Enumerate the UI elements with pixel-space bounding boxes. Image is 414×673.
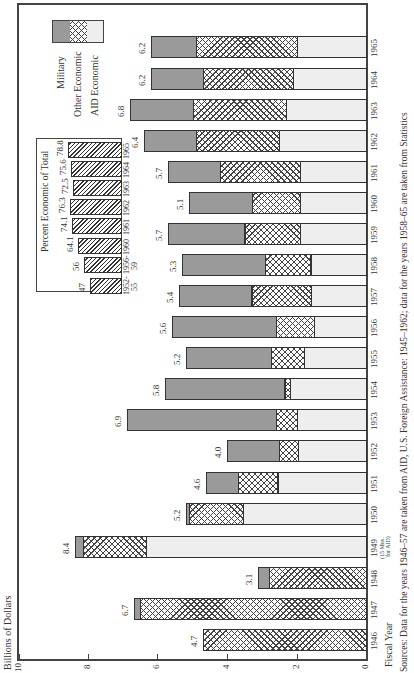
year-label: 1965 [369,39,379,57]
legend-swatch-other-economic [70,21,88,42]
segment-military [151,68,204,90]
value-axis-tick [88,654,89,659]
segment-military [168,161,221,183]
inset-bar [72,218,122,234]
segment-other-economic [196,130,280,152]
segment-military [206,472,238,494]
year-label: 1958 [369,257,379,275]
bar-total-label: 4.0 [213,447,223,458]
segment-military [75,536,85,558]
bar-total-label: 5.2 [172,510,182,521]
segment-other-economic [271,347,305,369]
segment-military [186,503,191,525]
year-label: 1947 [369,601,379,619]
segment-aid-economic [297,409,367,431]
inset-bar-value: 64.1 [65,236,75,252]
value-axis-tick-label: 2 [291,665,301,670]
legend-swatches [52,20,104,43]
inset-year-label: 59 [131,262,139,270]
year-note: for AID) [385,536,391,557]
bar-total-label: 6.9 [113,416,123,427]
segment-other-economic [252,285,312,307]
inset-year-label: 1964 [123,162,131,178]
value-axis-tick-label: 0 [360,665,370,670]
inset-bar [84,257,122,273]
value-axis-tick [297,654,298,659]
segment-other-economic [276,409,298,431]
year-label: 1961 [369,164,379,182]
inset-bar-value: 74.1 [59,216,69,232]
inset-year-label: 55 [131,283,139,291]
segment-aid-economic [286,99,367,121]
bar-total-label: 5.7 [154,168,164,179]
year-label: 1955 [369,350,379,368]
inset-bar [71,161,122,177]
segment-aid-economic [311,254,368,276]
value-axis-tick-label: 4 [221,665,231,670]
inset-bar-value: 75.6 [58,159,68,175]
legend-swatch-aid-economic [87,21,103,42]
bar-total-label: 6.2 [137,75,147,86]
segment-aid-economic [300,223,367,245]
year-label: 1964 [369,71,379,89]
inset-bar [68,142,122,158]
segment-military [172,316,277,338]
segment-other-economic [83,536,147,558]
inset-bar-value: 47 [77,283,87,292]
frame-border-top [17,3,367,5]
inset-bar-value: 56 [71,262,81,271]
category-axis-title: Fiscal Year [383,623,394,667]
segment-military [165,378,286,400]
segment-aid-economic [311,285,368,307]
value-axis-tick-label: 6 [151,665,161,670]
inset-bar [70,199,122,215]
segment-other-economic [189,503,244,525]
legend-label-military: Military [55,56,66,89]
legend-label-aid-economic: AID Economic [89,55,100,116]
chart-page: 1086420 Billions of Dollars Fiscal Year … [0,0,414,673]
segment-military [179,285,253,307]
legend-label-other-economic: Other Economic [72,51,83,117]
segment-military [189,192,253,214]
segment-military [186,347,272,369]
bar-total-label: 4.6 [192,479,202,490]
segment-other-economic [265,254,311,276]
segment-other-economic [269,567,367,589]
segment-military [144,130,197,152]
inset-title: Percent Economic of Total [40,151,50,252]
bar-total-label: 6.8 [116,106,126,117]
legend-swatch-military [53,21,71,42]
segment-aid-economic [279,130,367,152]
year-label: 1954 [369,381,379,399]
segment-military [127,409,277,431]
year-label: 1957 [369,288,379,306]
inset-bar-value: 76.3 [57,197,67,213]
segment-aid-economic [146,536,367,558]
year-label: 1962 [369,133,379,151]
bar-total-label: 5.2 [172,354,182,365]
value-axis-tick-label: 8 [82,665,92,670]
year-label: 1952 [369,443,379,461]
segment-other-economic [276,316,315,338]
bar-total-label: 6.2 [137,43,147,54]
segment-aid-economic [278,472,368,494]
value-axis-tick [366,654,367,659]
segment-military [182,254,266,276]
year-label: 1950 [369,506,379,524]
year-label: 1956 [369,319,379,337]
inset-bar-value: 78.8 [55,140,65,156]
segment-other-economic [252,192,302,214]
segment-military [227,440,280,462]
year-label: 1963 [369,102,379,120]
bar-total-label: 6.4 [130,137,140,148]
frame-border-left [17,3,19,660]
inset-bar [78,238,122,254]
year-label: 1948 [369,570,379,588]
segment-aid-economic [290,378,367,400]
inset-year-label: 1960 [123,239,131,255]
bar-total-label: 5.1 [175,199,185,210]
bar-total-label: 5.7 [154,230,164,241]
bar-total-label: 3.1 [244,574,254,585]
source-note: Sources: Data for the years 1946–57 are … [399,112,409,672]
segment-aid-economic [300,192,367,214]
